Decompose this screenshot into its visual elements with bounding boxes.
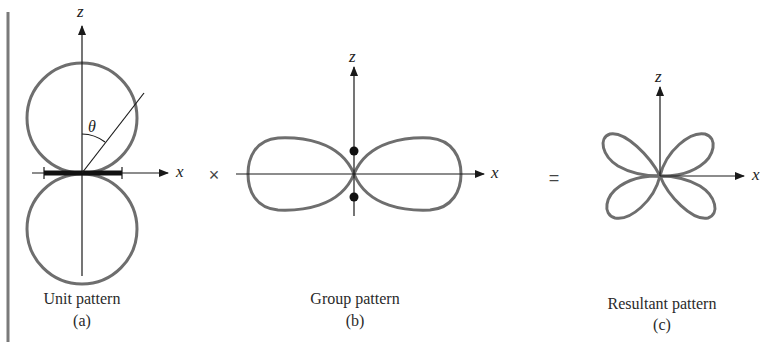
resultant-lobe-upper-right [660, 134, 713, 176]
x-axis-label-b: x [491, 164, 499, 181]
z-axis-label-b: z [349, 48, 356, 65]
caption-sub-a: (a) [73, 313, 91, 329]
multiply-operator: × [209, 166, 220, 184]
theta-arc [82, 134, 105, 142]
caption-group-pattern: Group pattern [310, 291, 399, 307]
caption-sub-b: (b) [346, 313, 365, 329]
group-pattern-panel [236, 67, 484, 216]
resultant-lobe-lower-left [607, 176, 660, 218]
point-source-lower [350, 193, 359, 202]
point-source-upper [350, 147, 359, 156]
equals-operator: = [549, 169, 560, 187]
resultant-pattern-panel [603, 87, 744, 218]
x-axis-label-c: x [752, 166, 760, 183]
caption-resultant-pattern: Resultant pattern [608, 296, 717, 312]
z-axis-label-c: z [655, 68, 662, 85]
resultant-lobe-upper-left [603, 134, 660, 176]
theta-label: θ [88, 119, 96, 135]
x-axis-label-a: x [176, 163, 184, 180]
z-axis-label-a: z [77, 3, 84, 20]
resultant-lobe-lower-right [660, 176, 715, 218]
caption-unit-pattern: Unit pattern [44, 291, 121, 307]
caption-sub-c: (c) [653, 317, 671, 333]
unit-pattern-panel [27, 26, 168, 284]
